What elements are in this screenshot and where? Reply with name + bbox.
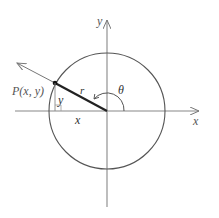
- vertical-segment-label: y: [57, 93, 64, 107]
- unit-circle-diagram: y x P(x, y) r y x θ: [0, 0, 219, 218]
- theta-label: θ: [118, 83, 124, 97]
- horizontal-segment-label: x: [74, 113, 81, 127]
- radius-label: r: [80, 84, 85, 96]
- point-p-label: P(x, y): [11, 84, 44, 98]
- terminal-ray: [17, 63, 55, 83]
- x-axis-label: x: [192, 114, 199, 128]
- y-axis-label: y: [96, 14, 103, 28]
